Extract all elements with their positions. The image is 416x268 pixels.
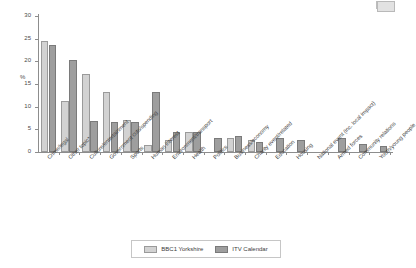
y-axis-tick-label: 0 <box>0 148 31 155</box>
y-axis-tick-label: 25 <box>0 35 31 42</box>
legend-label-bbc1-yorkshire: BBC1 Yorkshire <box>161 246 203 252</box>
x-axis-tick <box>183 152 184 155</box>
legend-swatch-itv-calendar <box>215 246 228 253</box>
x-axis-tick <box>121 152 122 155</box>
x-axis-tick <box>162 152 163 155</box>
bar-1-1 <box>69 60 77 152</box>
bar-1-0 <box>49 45 57 152</box>
legend-item-series-0: BBC1 Yorkshire <box>144 246 203 253</box>
y-axis-tick-label: 20 <box>0 57 31 64</box>
y-axis-tick-label: 15 <box>0 80 31 87</box>
x-axis-tick <box>349 152 350 155</box>
plot-area <box>38 16 390 152</box>
y-axis-tick <box>35 152 38 153</box>
x-axis-tick <box>390 152 391 155</box>
x-axis-tick <box>266 152 267 155</box>
y-axis-tick-label: 10 <box>0 103 31 110</box>
x-axis-tick <box>369 152 370 155</box>
legend-label-itv-calendar: ITV Calendar <box>232 246 267 252</box>
x-axis-tick <box>245 152 246 155</box>
x-axis-tick <box>100 152 101 155</box>
y-axis-tick-label: 30 <box>0 12 31 19</box>
corner-swatch-mark <box>377 1 395 12</box>
legend-item-series-1: ITV Calendar <box>215 246 267 253</box>
chart-legend: BBC1 Yorkshire ITV Calendar <box>131 240 281 258</box>
x-axis-tick <box>286 152 287 155</box>
bar-0-5 <box>144 145 152 152</box>
bar-1-5 <box>152 92 160 152</box>
y-axis-tick-label: 5 <box>0 125 31 132</box>
legend-swatch-bbc1-yorkshire <box>144 246 157 253</box>
x-axis-tick <box>79 152 80 155</box>
x-axis-tick <box>59 152 60 155</box>
x-axis-tick <box>307 152 308 155</box>
x-axis-tick <box>142 152 143 155</box>
bar-0-9 <box>227 138 235 152</box>
bar-0-0 <box>41 41 49 152</box>
x-axis-tick <box>224 152 225 155</box>
x-axis-tick <box>204 152 205 155</box>
